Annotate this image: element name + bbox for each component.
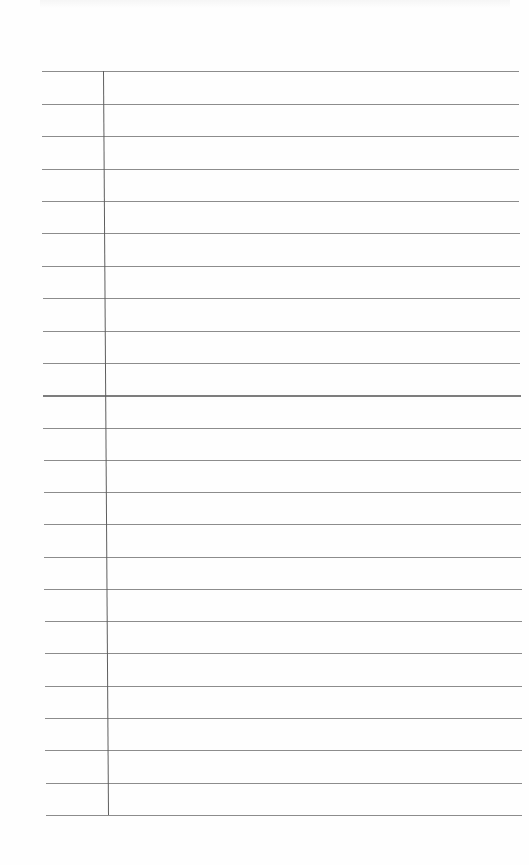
ruled-line (45, 653, 522, 654)
ruled-line (44, 557, 521, 558)
lined-paper-sheet (0, 0, 529, 865)
ruled-line (42, 104, 519, 105)
ruled-line (45, 621, 522, 622)
ruled-line (43, 395, 521, 397)
ruled-line (43, 363, 520, 364)
margin-line (103, 71, 109, 815)
ruled-line (42, 136, 519, 137)
ruled-line (44, 460, 521, 461)
ruled-line (43, 428, 521, 429)
ruled-line (44, 589, 522, 590)
ruled-line (44, 524, 521, 525)
ruled-line (45, 686, 522, 687)
ruled-line (42, 233, 520, 234)
ruled-line (45, 750, 522, 751)
ruled-line (43, 298, 520, 299)
ruled-line (42, 169, 519, 170)
ruled-line (46, 815, 522, 816)
ruled-line (42, 201, 519, 202)
ruled-line (44, 492, 521, 493)
faint-bleed-through (40, 0, 510, 8)
ruled-line (42, 266, 520, 267)
ruled-line (45, 718, 522, 719)
ruled-line (42, 71, 519, 72)
ruled-line (46, 783, 522, 784)
ruled-line (43, 331, 520, 332)
